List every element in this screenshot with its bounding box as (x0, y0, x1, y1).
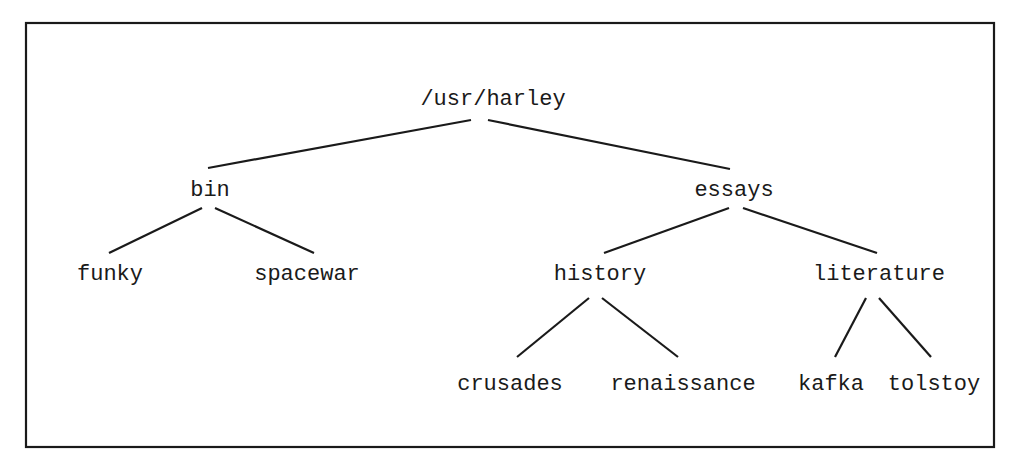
edge-bin-to-spacewar (215, 208, 314, 253)
edge-essays-to-literature (743, 208, 877, 253)
node-history: history (554, 262, 646, 287)
edge-root-to-essays (488, 120, 730, 169)
node-tolstoy: tolstoy (888, 372, 980, 397)
node-crusades: crusades (457, 372, 563, 397)
edge-history-to-renaissance (602, 298, 678, 357)
node-kafka: kafka (798, 372, 864, 397)
node-essays: essays (694, 178, 773, 203)
node-bin: bin (190, 178, 230, 203)
directory-tree-diagram: /usr/harleybinessaysfunkyspacewarhistory… (0, 0, 1021, 465)
tree-edges (109, 120, 931, 357)
node-root: /usr/harley (420, 87, 565, 112)
node-renaissance: renaissance (610, 372, 755, 397)
node-funky: funky (77, 262, 143, 287)
edge-essays-to-history (604, 208, 729, 253)
node-spacewar: spacewar (254, 262, 360, 287)
edge-literature-to-kafka (835, 298, 866, 357)
edge-history-to-crusades (517, 298, 589, 357)
edge-root-to-bin (208, 120, 471, 168)
edge-literature-to-tolstoy (879, 298, 931, 357)
edge-bin-to-funky (109, 208, 202, 253)
node-literature: literature (813, 262, 945, 287)
